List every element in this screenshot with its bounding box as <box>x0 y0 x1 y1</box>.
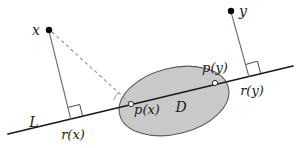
angle-arc-px <box>114 92 120 101</box>
label-region-D: D <box>174 99 186 115</box>
label-proj-px: p(x) <box>134 102 160 117</box>
label-point-x: x <box>32 22 40 38</box>
label-point-y: y <box>238 3 248 19</box>
point-px-dot <box>128 101 133 106</box>
label-line-L: L <box>28 114 38 130</box>
point-py-dot <box>212 80 217 85</box>
label-foot-ry: r(y) <box>240 83 264 98</box>
segment-y-to-ry <box>231 12 249 77</box>
segment-x-to-rx <box>49 31 71 120</box>
label-proj-py: p(y) <box>202 60 228 75</box>
point-y-dot <box>228 8 234 14</box>
figure-canvas: x y L D p(x) p(y) r(x) r(y) <box>0 0 296 148</box>
geometry-figure: x y L D p(x) p(y) r(x) r(y) <box>0 0 296 148</box>
point-x-dot <box>46 27 52 33</box>
label-foot-rx: r(x) <box>61 127 85 142</box>
right-angle-mark-rx <box>68 104 82 116</box>
